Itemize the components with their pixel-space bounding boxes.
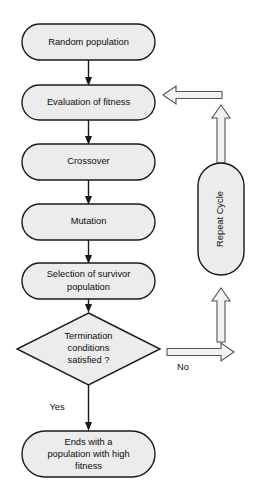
node-decision-line1: Termination	[64, 331, 112, 341]
loop-arrow-up-lower	[212, 288, 230, 342]
flowchart-canvas: Random population Evaluation of fitness …	[0, 0, 255, 493]
node-repeat-cycle-label: Repeat Cycle	[215, 191, 225, 247]
node-random-population: Random population	[22, 24, 155, 60]
node-end-line2: population with high	[47, 449, 129, 459]
edge-label-no: No	[177, 362, 189, 372]
node-end-line3: fitness	[75, 461, 102, 471]
connector-crossover-to-mutation	[85, 180, 92, 205]
edge-label-yes: Yes	[49, 402, 65, 412]
connector-evaluation-to-crossover	[85, 120, 92, 145]
node-end-result: Ends with a population with high fitness	[22, 431, 155, 477]
node-evaluation-of-fitness-label: Evaluation of fitness	[47, 97, 131, 107]
loop-arrow-right	[167, 343, 234, 361]
node-selection-line2: population	[67, 282, 110, 292]
node-crossover: Crossover	[22, 144, 155, 180]
connector-selection-to-decision	[85, 299, 92, 313]
node-selection-line1: Selection of survivor	[47, 269, 131, 279]
connector-decision-to-end	[85, 385, 92, 431]
node-selection-of-survivor-population: Selection of survivor population	[22, 263, 155, 299]
loop-arrow-left	[163, 86, 222, 104]
node-mutation: Mutation	[22, 204, 155, 240]
connector-start-to-evaluation	[85, 60, 92, 86]
loop-arrow-up-upper	[212, 105, 230, 163]
node-random-population-label: Random population	[48, 37, 129, 47]
node-repeat-cycle: Repeat Cycle	[198, 163, 244, 275]
node-mutation-label: Mutation	[71, 216, 107, 226]
node-decision-line3: satisfied ?	[68, 355, 110, 365]
node-termination-decision: Termination conditions satisfied ?	[17, 313, 160, 385]
flowchart-svg: Random population Evaluation of fitness …	[0, 0, 255, 493]
node-crossover-label: Crossover	[67, 156, 109, 166]
node-decision-line2: conditions	[68, 343, 110, 353]
node-end-line1: Ends with a	[64, 437, 113, 447]
connector-mutation-to-selection	[85, 240, 92, 264]
node-evaluation-of-fitness: Evaluation of fitness	[22, 85, 155, 120]
